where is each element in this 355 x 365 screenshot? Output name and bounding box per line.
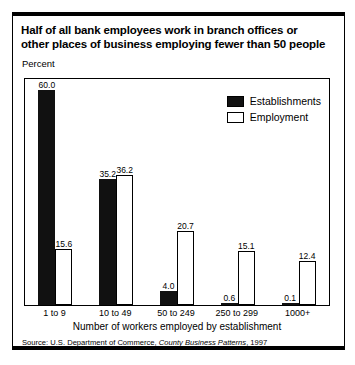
x-tick-label: 10 to 49: [99, 308, 132, 319]
bar-value-label: 15.1: [238, 242, 255, 251]
bar-establishments: 35.2: [99, 179, 116, 305]
bar-establishments: 4.0: [160, 291, 177, 305]
x-tick-label: 50 to 249: [157, 308, 195, 319]
plot-frame: Establishments Employment 60.0 15.6 35.2: [24, 78, 330, 306]
bar-employment: 15.1: [238, 251, 255, 305]
source-publication: County Business Patterns: [159, 338, 246, 347]
bar-group: 0.6 15.1: [221, 79, 255, 305]
chart-title-line-2: other places of business employing fewer…: [21, 37, 336, 51]
bar-employment: 20.7: [177, 231, 194, 305]
bar-value-label: 0.1: [284, 294, 296, 303]
x-axis-tick-labels: 1 to 9 10 to 49 50 to 249 250 to 299 100…: [24, 308, 330, 320]
bar-employment: 15.6: [55, 249, 72, 305]
x-tick-label: 1000+: [285, 308, 310, 319]
bar-value-label: 36.2: [116, 166, 133, 175]
bar-establishments: 0.1: [282, 303, 299, 305]
figure-container: Half of all bank employees work in branc…: [12, 12, 345, 350]
bar-value-label: 4.0: [163, 282, 175, 291]
bar-group: 35.2 36.2: [99, 79, 133, 305]
bar-value-label: 60.0: [39, 81, 56, 90]
bar-value-label: 12.4: [299, 252, 316, 261]
y-axis-unit-label: Percent: [22, 58, 344, 69]
chart-title: Half of all bank employees work in branc…: [21, 23, 336, 51]
x-tick-label: 1 to 9: [43, 308, 66, 319]
bar-group: 60.0 15.6: [38, 79, 72, 305]
bar-employment: 12.4: [299, 261, 316, 305]
x-tick-label: 250 to 299: [216, 308, 259, 319]
bar-group: 4.0 20.7: [160, 79, 194, 305]
source-suffix: , 1997: [246, 338, 267, 347]
bar-establishments: 60.0: [38, 90, 55, 305]
source-note: Source: U.S. Department of Commerce, Cou…: [22, 338, 267, 347]
bar-value-label: 15.6: [56, 240, 73, 249]
bar-value-label: 0.6: [223, 294, 235, 303]
bar-value-label: 20.7: [177, 222, 194, 231]
source-prefix: Source: U.S. Department of Commerce,: [22, 338, 159, 347]
bar-group: 0.1 12.4: [282, 79, 316, 305]
plot-area: 60.0 15.6 35.2 36.2 4.0 20.7: [25, 79, 329, 305]
bar-employment: 36.2: [116, 175, 133, 305]
bar-establishments: 0.6: [221, 303, 238, 305]
chart-title-line-1: Half of all bank employees work in branc…: [21, 23, 336, 37]
x-axis-title: Number of workers employed by establishm…: [24, 321, 330, 333]
bar-value-label: 35.2: [99, 170, 116, 179]
